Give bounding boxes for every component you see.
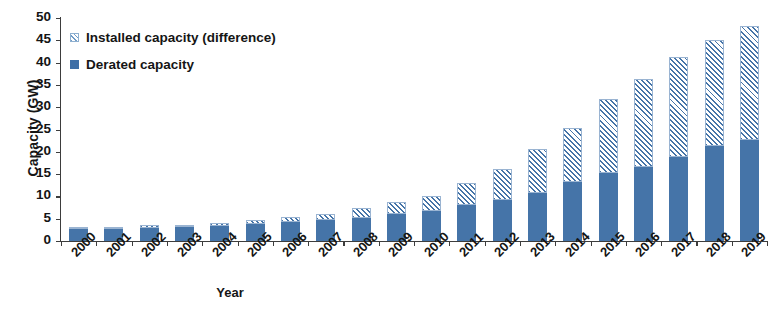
bar-segment-installed-difference[interactable] bbox=[175, 225, 194, 228]
y-tick-label: 30 bbox=[21, 98, 51, 113]
y-tick-label: 10 bbox=[21, 187, 51, 202]
bar-segment-derated[interactable] bbox=[740, 140, 759, 241]
y-tick-label: 15 bbox=[21, 165, 51, 180]
bar-segment-derated[interactable] bbox=[669, 157, 688, 241]
y-tick-label: 35 bbox=[21, 76, 51, 91]
bar-segment-installed-difference[interactable] bbox=[316, 214, 335, 221]
x-tick-mark bbox=[767, 241, 768, 246]
x-tick-mark bbox=[132, 241, 133, 246]
x-tick-mark bbox=[626, 241, 627, 246]
y-tick-label: 0 bbox=[21, 232, 51, 247]
x-tick-mark bbox=[343, 241, 344, 246]
bar-segment-installed-difference[interactable] bbox=[457, 183, 476, 205]
x-tick-mark bbox=[273, 241, 274, 246]
y-tick-label: 50 bbox=[21, 9, 51, 24]
bar-segment-installed-difference[interactable] bbox=[493, 169, 512, 199]
bar-segment-installed-difference[interactable] bbox=[634, 79, 653, 167]
bar-segment-installed-difference[interactable] bbox=[104, 227, 123, 229]
legend-label-installed: Installed capacity (difference) bbox=[86, 30, 276, 45]
bar-chart: Capacity (GW) Year 05101520253035404550 … bbox=[0, 0, 771, 319]
bar-segment-installed-difference[interactable] bbox=[140, 225, 159, 227]
bar-segment-installed-difference[interactable] bbox=[387, 202, 406, 214]
x-tick-mark bbox=[308, 241, 309, 246]
x-tick-mark bbox=[661, 241, 662, 246]
bar-segment-installed-difference[interactable] bbox=[422, 196, 441, 211]
x-tick-mark bbox=[238, 241, 239, 246]
y-tick-label: 5 bbox=[21, 210, 51, 225]
x-tick-mark bbox=[732, 241, 733, 246]
bar-segment-installed-difference[interactable] bbox=[669, 57, 688, 157]
x-tick-mark bbox=[591, 241, 592, 246]
bar-segment-installed-difference[interactable] bbox=[563, 128, 582, 182]
bar-segment-derated[interactable] bbox=[705, 146, 724, 241]
y-tick-label: 40 bbox=[21, 54, 51, 69]
legend-label-derated: Derated capacity bbox=[86, 57, 194, 72]
bar-segment-installed-difference[interactable] bbox=[528, 149, 547, 193]
legend-swatch-solid-icon bbox=[70, 60, 79, 69]
x-tick-mark bbox=[61, 241, 62, 246]
y-tick-label: 45 bbox=[21, 31, 51, 46]
bar-segment-installed-difference[interactable] bbox=[281, 217, 300, 222]
x-tick-mark bbox=[379, 241, 380, 246]
x-tick-mark bbox=[167, 241, 168, 246]
chart-legend: Installed capacity (difference) Derated … bbox=[70, 30, 370, 84]
bar-segment-installed-difference[interactable] bbox=[740, 26, 759, 139]
bar-segment-installed-difference[interactable] bbox=[246, 220, 265, 224]
x-tick-mark bbox=[414, 241, 415, 246]
x-tick-mark bbox=[485, 241, 486, 246]
y-tick-label: 20 bbox=[21, 143, 51, 158]
legend-item-installed: Installed capacity (difference) bbox=[70, 30, 370, 45]
x-tick-mark bbox=[449, 241, 450, 246]
x-tick-mark bbox=[696, 241, 697, 246]
bar-segment-installed-difference[interactable] bbox=[210, 223, 229, 226]
bar-segment-installed-difference[interactable] bbox=[69, 227, 88, 229]
bar-segment-installed-difference[interactable] bbox=[352, 208, 371, 218]
x-axis-title: Year bbox=[0, 285, 460, 300]
x-tick-mark bbox=[520, 241, 521, 246]
legend-swatch-hatched-icon bbox=[70, 33, 79, 42]
bar-segment-installed-difference[interactable] bbox=[599, 99, 618, 173]
legend-item-derated: Derated capacity bbox=[70, 57, 370, 72]
x-tick-mark bbox=[96, 241, 97, 246]
y-tick-label: 25 bbox=[21, 121, 51, 136]
bar-segment-installed-difference[interactable] bbox=[705, 40, 724, 147]
